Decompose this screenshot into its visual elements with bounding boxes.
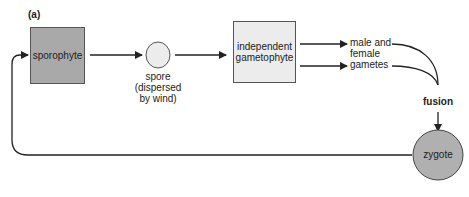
sporophyte-node: sporophyte xyxy=(30,27,85,84)
spore-label: spore (dispersed by wind) xyxy=(128,71,188,104)
spore-node xyxy=(146,42,170,68)
zygote-label: zygote xyxy=(413,149,463,160)
gametophyte-node: independent gametophyte xyxy=(233,21,296,83)
panel-label: (a) xyxy=(28,9,40,20)
fusion-label: fusion xyxy=(418,96,458,107)
sporophyte-label: sporophyte xyxy=(33,50,82,61)
gametes-label: male and female gametes xyxy=(350,37,391,70)
